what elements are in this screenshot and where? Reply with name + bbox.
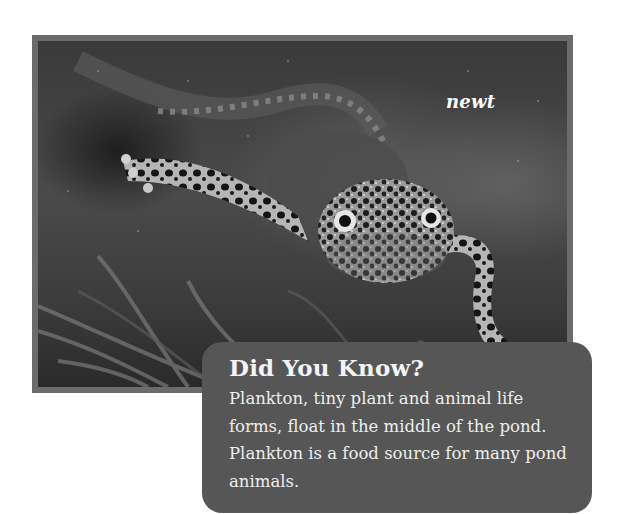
photo-label: newt <box>446 91 495 112</box>
fact-box-title: Did You Know? <box>229 354 572 382</box>
photo-frame: newt <box>32 35 573 393</box>
did-you-know-box: Did You Know? Plankton, tiny plant and a… <box>202 342 592 513</box>
fact-box-body: Plankton, tiny plant and animal life for… <box>229 385 579 495</box>
newt-photo: newt <box>38 41 567 387</box>
